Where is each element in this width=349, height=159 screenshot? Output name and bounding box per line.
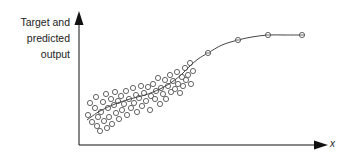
scatter-point — [152, 96, 157, 101]
scatter-point — [113, 110, 118, 115]
scatter-point — [101, 118, 106, 123]
scatter-point — [150, 81, 155, 86]
scatter-point — [89, 119, 94, 124]
scatter-point — [100, 99, 105, 104]
scatter-point — [145, 84, 150, 89]
scatter-point — [85, 112, 90, 117]
scatter-point — [131, 100, 136, 105]
scatter-point — [175, 81, 180, 86]
scatter-point — [177, 90, 182, 95]
scatter-point — [174, 69, 179, 74]
scatter-point — [172, 86, 177, 91]
scatter-point — [94, 123, 99, 128]
scatter-point — [143, 98, 148, 103]
scatter-point — [130, 85, 135, 90]
scatter-point — [147, 107, 152, 112]
scatter-point — [123, 88, 128, 93]
x-axis-arrow-icon — [314, 141, 328, 150]
scatter-point — [180, 83, 185, 88]
scatter-point — [108, 96, 113, 101]
scatter-point — [188, 81, 193, 86]
scatter-point — [116, 116, 121, 121]
y-axis — [75, 11, 84, 145]
scatter-point — [97, 128, 102, 133]
scatter-point — [155, 75, 160, 80]
scatter-point — [87, 100, 92, 105]
y-axis-label-line-3: output — [0, 46, 70, 62]
scatter-point — [93, 94, 98, 99]
scatter-point — [112, 89, 117, 94]
scatter-point — [121, 101, 126, 106]
scatter-point — [104, 125, 109, 130]
x-axis — [79, 141, 328, 150]
scatter-point — [128, 105, 133, 110]
y-axis-label-line-1: Target and — [0, 14, 70, 30]
predicted-curve — [87, 35, 302, 120]
scatter-point — [160, 91, 165, 96]
scatter-point — [103, 91, 108, 96]
scatter-point — [119, 107, 124, 112]
scatter-point — [118, 93, 123, 98]
y-axis-label: Target and predicted output — [0, 14, 70, 62]
scatter-point — [92, 105, 97, 110]
x-axis-label: x — [330, 138, 335, 149]
y-axis-label-line-2: predicted — [0, 30, 70, 46]
scatter-point — [139, 103, 144, 108]
curve-markers — [205, 32, 304, 55]
scatter-point — [138, 83, 143, 88]
scatter-point — [185, 72, 190, 77]
scatter-point — [157, 101, 162, 106]
scatter-point — [183, 77, 188, 82]
scatter-point — [134, 109, 139, 114]
scatter-point — [167, 72, 172, 77]
scatter-point — [190, 68, 195, 73]
scatter-point — [95, 114, 100, 119]
y-axis-arrow-icon — [75, 11, 84, 25]
scatter-point — [124, 112, 129, 117]
scatter-point — [163, 96, 168, 101]
scatter-point — [162, 77, 167, 82]
scatter-point — [106, 114, 111, 119]
scatter-point — [109, 121, 114, 126]
scatter-points — [85, 60, 195, 133]
